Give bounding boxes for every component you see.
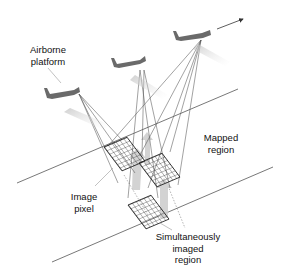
label-line: Simultaneously — [150, 231, 226, 243]
label-simultaneously-imaged-region: Simultaneously imaged region — [150, 231, 226, 266]
label-mapped-region: Mapped region — [201, 132, 241, 155]
flight-direction-arrow-icon — [217, 19, 243, 29]
label-line: platform — [28, 56, 68, 68]
label-line: imaged — [150, 243, 226, 255]
label-line: pixel — [64, 203, 104, 215]
sensor-geometry-diagram — [0, 0, 288, 278]
label-line: Mapped — [201, 132, 241, 144]
aircraft-left-icon — [44, 87, 110, 130]
label-image-pixel: Image pixel — [64, 191, 104, 214]
label-line: Image — [64, 191, 104, 203]
label-line: region — [150, 254, 226, 266]
aircraft-right-icon — [173, 30, 230, 66]
label-line: region — [201, 144, 241, 156]
label-airborne-platform: Airborne platform — [28, 44, 68, 67]
mapped-region-boundaries — [17, 89, 273, 262]
label-line: Airborne — [28, 44, 68, 56]
